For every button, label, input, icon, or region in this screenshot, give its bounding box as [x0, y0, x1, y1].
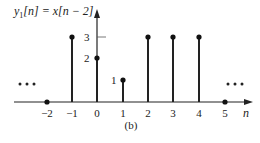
figure-caption: (b) — [125, 119, 138, 132]
x-tick-label: −2 — [41, 107, 53, 119]
y-tick-label-1: 1 — [111, 74, 117, 86]
x-axis-arrow-icon — [244, 99, 253, 105]
y-tick-label-3: 3 — [84, 31, 90, 43]
x-tick-label: 2 — [145, 107, 151, 119]
x-tick-label: 1 — [120, 107, 126, 119]
x-tick-label: 3 — [170, 107, 176, 119]
x-tick-label: 4 — [196, 107, 202, 119]
x-axis-label: n — [243, 106, 249, 120]
stems — [72, 37, 199, 102]
figure-title: y1[n] = x[n − 2] — [13, 4, 94, 20]
x-tick-label: −1 — [66, 107, 78, 119]
y-axis-arrow-icon — [94, 9, 100, 18]
stem-plot: y1[n] = x[n − 2] 3 2 1 −2 −1 0 1 2 3 — [0, 0, 260, 143]
ellipsis-right-icon — [227, 83, 244, 86]
y-tick-label-2: 2 — [84, 52, 90, 64]
ellipsis-left-icon — [19, 83, 36, 86]
x-tick-label: 5 — [222, 107, 228, 119]
x-tick-label: 0 — [94, 107, 100, 119]
